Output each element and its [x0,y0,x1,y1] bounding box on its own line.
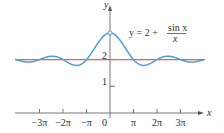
x-tick-label: −3π [32,117,48,128]
axes: x y −3π−2π−ππ2π3π 12 0 [15,0,212,128]
y-tick-label: 1 [102,76,107,87]
annotation-numerator: sin x [168,22,187,33]
x-tick-label: −π [81,117,92,128]
annotation-denominator: x [172,33,178,44]
x-ticks: −3π−2π−ππ2π3π [32,109,186,128]
function-annotation: y = 2 + sin x x [129,22,187,44]
open-circle-hole [108,31,112,35]
x-axis-arrow-icon [198,111,204,115]
x-tick-label: 3π [175,117,185,128]
x-tick-label: 2π [152,117,162,128]
x-axis-label: x [206,107,212,118]
y-axis-label: y [103,0,109,10]
annotation-prefix: y = 2 + [129,27,158,38]
y-axis-arrow-icon [108,5,112,11]
x-tick-label: −2π [55,117,71,128]
y-tick-label: 2 [102,50,107,61]
origin-label: 0 [102,117,107,128]
x-tick-label: π [131,117,136,128]
chart: x y −3π−2π−ππ2π3π 12 0 y = 2 + sin x x [0,0,224,133]
y-ticks: 12 [102,50,115,88]
